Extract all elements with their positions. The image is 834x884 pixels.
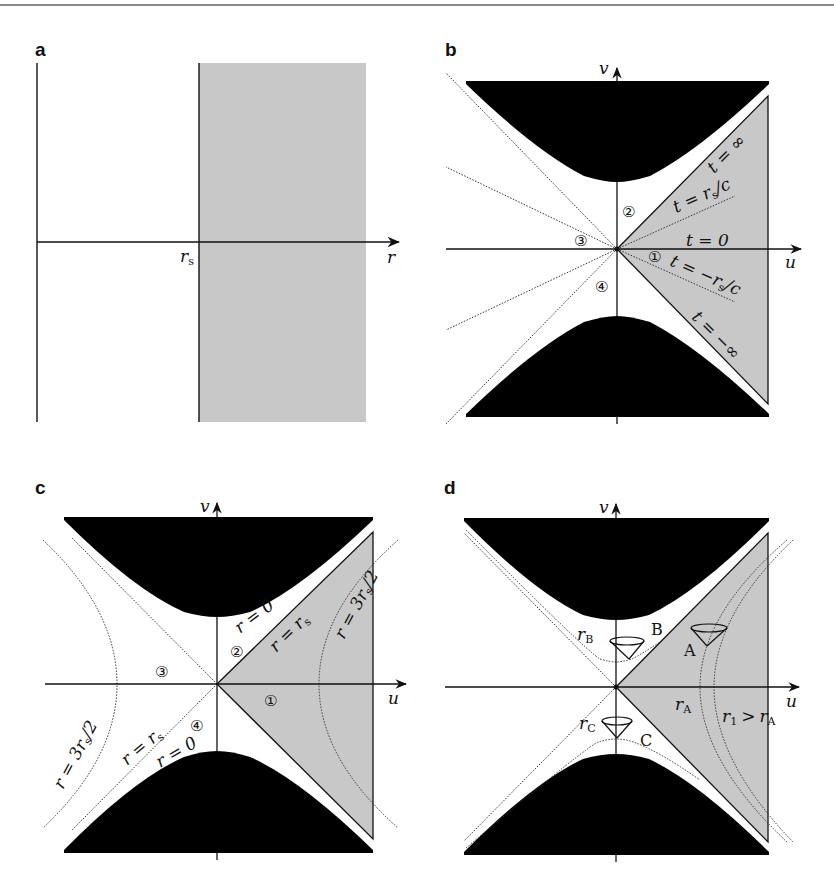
point-C-label: C xyxy=(640,731,652,750)
panel-a: a rs r xyxy=(35,39,399,422)
region-2-marker: ② xyxy=(230,643,243,661)
panel-label-d: d xyxy=(444,477,456,498)
t-zero-label: t = 0 xyxy=(686,230,729,250)
panel-d: d v u xyxy=(444,477,799,862)
v-axis-label: v xyxy=(599,497,609,517)
kruskal-diagram-figure: a rs r b v u ① ② ③ ④ t = ∞ xyxy=(0,0,834,884)
u-axis-label: u xyxy=(786,691,797,711)
v-axis-label: v xyxy=(599,58,609,78)
panel-b: b v u ① ② ③ ④ t = ∞ t = rs/c t = 0 t = −… xyxy=(445,39,801,424)
rs-label: rs xyxy=(180,246,194,268)
u-axis-label: u xyxy=(388,688,399,708)
region-4-marker: ④ xyxy=(190,717,203,735)
origin-point xyxy=(614,685,619,690)
r-C-label: rC xyxy=(579,713,596,735)
panel-label-a: a xyxy=(35,39,46,60)
light-cone-B xyxy=(610,637,644,659)
region-2-marker: ② xyxy=(622,203,635,221)
region-3-marker: ③ xyxy=(155,663,168,681)
u-axis-label: u xyxy=(785,252,796,272)
point-A-label: A xyxy=(683,641,696,660)
light-cone-C xyxy=(602,717,632,738)
region-4-marker: ④ xyxy=(595,278,608,296)
point-B-label: B xyxy=(651,620,663,639)
panel-label-b: b xyxy=(445,39,457,60)
panel-label-c: c xyxy=(35,477,46,498)
r-axis-label: r xyxy=(387,247,396,267)
photon-sphere-left-label: r = 3rs/2 xyxy=(49,717,103,793)
region-1-marker: ① xyxy=(264,692,277,710)
origin-point xyxy=(615,247,620,252)
v-axis-label: v xyxy=(200,496,210,516)
r-B-label: rB xyxy=(577,624,593,646)
region-1-marker: ① xyxy=(648,248,661,266)
panel-c: c v u ① ② ③ ④ r = 0 r = rs r = 3rs/2 r =… xyxy=(35,477,406,860)
region-3-marker: ③ xyxy=(574,232,587,250)
